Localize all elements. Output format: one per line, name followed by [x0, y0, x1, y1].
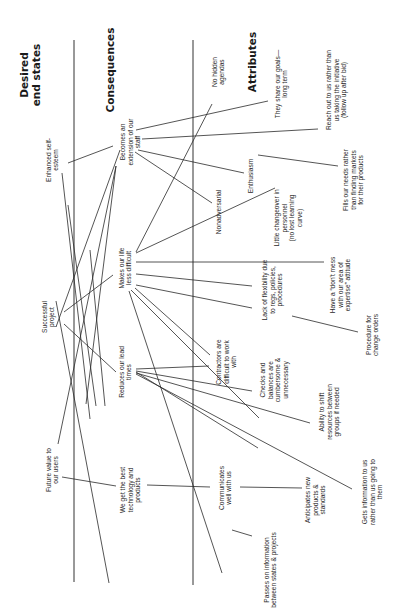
node-no_hidden: No hiddenagendas [211, 57, 227, 87]
node-text-line: agendas [218, 59, 226, 85]
node-text-line: project [48, 307, 56, 327]
node-text-line: products [134, 477, 142, 503]
node-nonadversarial: Nonadversarial [215, 189, 222, 234]
node-text-line: curve) [296, 209, 304, 227]
node-text-line: Future value to [45, 448, 52, 492]
node-text-line: change orders [372, 313, 380, 356]
node-life_less_difficult: Makes our lifeless difficult [118, 247, 133, 288]
column-header-text-line: Attributes [246, 32, 258, 92]
node-text-line: well with us [225, 470, 232, 505]
node-text-line: long term [281, 70, 289, 98]
node-text-line: Communicates [218, 465, 225, 510]
column-header-desired: Desiredend states [18, 44, 42, 107]
node-text-line: Reach out to us rather than [325, 50, 332, 130]
column-header-consequences: Consequences [104, 28, 116, 113]
node-text-line: Contractors are [215, 339, 222, 385]
node-text-line: cumbersome & [274, 357, 281, 402]
node-text-line: Have a “don't mess [329, 256, 336, 313]
node-text-line: groups if needed [333, 387, 341, 436]
node-text-line: them [376, 484, 383, 499]
node-text-line: Fills our needs rather [342, 148, 349, 211]
node-text-line: procedures [276, 273, 284, 307]
column-header-text-line: end states [30, 44, 42, 107]
node-text-line: Procedure for [365, 314, 372, 355]
node-text-line: staff [134, 136, 141, 149]
node-passes_info: Passes on informationbetween states & pr… [263, 532, 279, 608]
node-text-line: standards [319, 485, 326, 515]
node-text-line: times [125, 363, 132, 379]
node-dont_mess: Have a “don't messwith our area ofexpert… [329, 256, 352, 313]
column-header-text-line: Desired [18, 52, 30, 98]
node-text-line: Nonadversarial [215, 189, 222, 234]
node-text-line: with [230, 356, 237, 369]
node-text-line: extension of our [127, 118, 134, 166]
node-text-line: our users [52, 456, 59, 484]
node-text-line: Makes our life [118, 247, 125, 288]
node-checks_balances: Checks andbalances arecumbersome &unnece… [259, 357, 290, 402]
node-text-line: for their products [357, 155, 365, 205]
node-text-line: No hidden [211, 57, 218, 87]
node-text-line: Successful [41, 301, 48, 333]
column-header-attributes: Attributes [246, 32, 258, 92]
node-fills_needs: Fills our needs ratherthan finding marke… [342, 148, 365, 211]
node-text-line: unnecessary [282, 361, 290, 399]
node-communicates: Communicateswell with us [218, 465, 233, 510]
node-enthusiasm: Enthusiasm [247, 158, 254, 193]
node-text-line: Becomes an [119, 123, 126, 160]
node-text-line: difficult to work [223, 340, 230, 384]
means-end-chain-diagram: Desiredend statesConsequencesAttributes … [0, 0, 404, 616]
node-text-line: expertise” attitude [344, 258, 352, 311]
column-header-text-line: Consequences [104, 28, 116, 113]
node-text-line: balances are [267, 361, 274, 399]
node-text-line: (follow up after bid) [340, 62, 348, 118]
node-text-line: resources between [326, 384, 333, 440]
node-text-line: Enthusiasm [247, 158, 254, 193]
node-text-line: Gets information to us [361, 459, 368, 524]
node-text-line: between states & projects [270, 532, 278, 608]
node-text-line: Passes on information [263, 537, 270, 603]
node-text-line: Reduces our lead [118, 346, 125, 398]
node-text-line: Enhanced self- [45, 138, 52, 182]
node-text-line: with our area of [337, 262, 344, 309]
node-text-line: Checks and [259, 362, 266, 397]
node-change_orders: Procedure forchange orders [365, 313, 381, 356]
node-text-line: less difficult [125, 251, 132, 285]
diagram-canvas: Desiredend statesConsequencesAttributes … [0, 0, 404, 616]
node-text-line: esteem [52, 149, 59, 171]
